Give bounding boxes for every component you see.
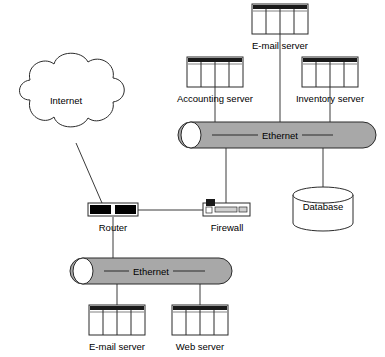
firewall-port-b-icon (239, 207, 247, 212)
router-body-left-icon (90, 205, 111, 214)
internet-cloud[interactable]: Internet (20, 53, 125, 127)
server-header-bar-icon (253, 5, 307, 9)
ethernet-bus-bottom[interactable]: Ethernet (70, 258, 232, 284)
server-web[interactable]: Web server (172, 305, 228, 352)
database-label: Database (303, 201, 344, 212)
server-accounting-label: Accounting server (177, 93, 253, 104)
ethernet-bus-top-label: Ethernet (262, 130, 298, 141)
server-inventory-label: Inventory server (296, 93, 364, 104)
router-body-right-icon (115, 205, 136, 214)
server-header-bar-icon (90, 306, 144, 310)
database[interactable]: Database (293, 187, 353, 231)
firewall-port-bank-icon (215, 207, 237, 212)
server-email-bottom-label: E-mail server (89, 341, 145, 352)
network-diagram-canvas: Internet E-mail server Accounting server (0, 0, 385, 357)
link-internet-to-router (76, 143, 102, 203)
server-web-label: Web server (176, 341, 224, 352)
firewall[interactable]: Firewall (203, 199, 250, 233)
router-label: Router (99, 222, 128, 233)
server-accounting[interactable]: Accounting server (177, 57, 253, 104)
server-email-top-label: E-mail server (252, 40, 308, 51)
server-inventory[interactable]: Inventory server (296, 57, 364, 104)
server-header-bar-icon (173, 306, 227, 310)
internet-label: Internet (50, 95, 83, 106)
bus-cap-icon (73, 258, 93, 284)
firewall-module-icon (206, 199, 215, 206)
server-email-bottom[interactable]: E-mail server (89, 305, 145, 352)
firewall-label: Firewall (211, 222, 244, 233)
ethernet-bus-bottom-label: Ethernet (133, 266, 169, 277)
firewall-port-a-icon (206, 207, 212, 213)
server-header-bar-icon (188, 58, 242, 62)
ethernet-bus-top[interactable]: Ethernet (178, 122, 376, 148)
bus-cap-icon (181, 122, 201, 148)
server-email-top[interactable]: E-mail server (252, 4, 308, 51)
cloud-icon (20, 53, 125, 127)
network-diagram: Internet E-mail server Accounting server (0, 0, 385, 357)
server-header-bar-icon (303, 58, 357, 62)
